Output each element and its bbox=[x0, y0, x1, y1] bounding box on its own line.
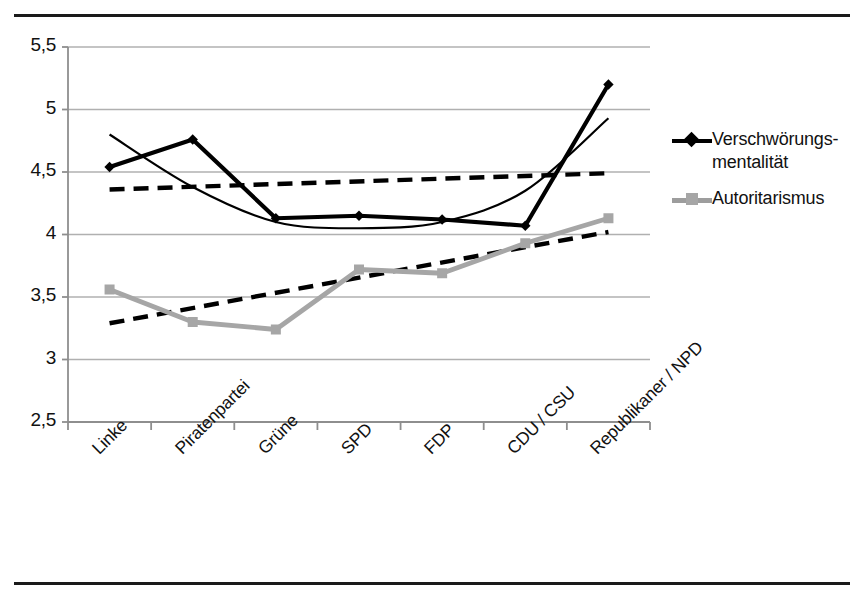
legend-label-line2: mentalität bbox=[712, 152, 788, 172]
y-axis-tick-label: 5,5 bbox=[4, 34, 56, 56]
legend-label-line1: Verschwörungs- bbox=[712, 129, 838, 149]
chart-legend: Verschwörungs-mentalität Autoritarismus bbox=[672, 128, 862, 224]
data-point-marker bbox=[520, 238, 530, 248]
legend-label-autoritarismus: Autoritarismus bbox=[712, 187, 824, 210]
data-point-marker bbox=[354, 211, 364, 221]
data-point-marker bbox=[188, 317, 198, 327]
line-chart-plot bbox=[0, 0, 864, 606]
data-point-marker bbox=[104, 162, 114, 172]
data-point-marker bbox=[354, 265, 364, 275]
data-point-marker bbox=[105, 285, 115, 295]
data-point-marker bbox=[271, 325, 281, 335]
data-point-marker bbox=[437, 268, 447, 278]
linear-trendline bbox=[110, 232, 609, 323]
series-lines-group bbox=[110, 85, 609, 330]
figure-container: 2,533,544,555,5 LinkePiratenparteiGrüneS… bbox=[0, 0, 864, 606]
y-axis-tick-label: 3 bbox=[4, 347, 56, 369]
series-line-verschwoerungsmentalitaet bbox=[110, 85, 609, 226]
legend-item-verschwoerungsmentalitaet[interactable]: Verschwörungs-mentalität bbox=[672, 128, 862, 173]
data-point-marker bbox=[603, 213, 613, 223]
y-axis-tick-label: 4 bbox=[4, 222, 56, 244]
y-axis-tick-label: 4,5 bbox=[4, 159, 56, 181]
diamond-marker-icon bbox=[672, 129, 712, 151]
legend-label-verschwoerungsmentalitaet: Verschwörungs-mentalität bbox=[712, 128, 838, 173]
square-marker-icon bbox=[672, 188, 712, 210]
y-axis-tick-label: 3,5 bbox=[4, 284, 56, 306]
legend-item-autoritarismus[interactable]: Autoritarismus bbox=[672, 187, 862, 210]
y-axis-tick-label: 5 bbox=[4, 97, 56, 119]
y-axis-tick-label: 2,5 bbox=[4, 409, 56, 431]
